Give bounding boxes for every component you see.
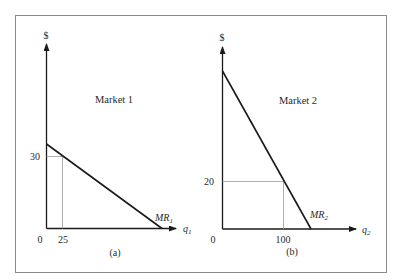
mr1-curve [47,144,163,229]
y-axis-label-a: $ [44,30,49,41]
y-axis-label-b: $ [220,32,225,43]
x-tick-25: 25 [58,234,68,245]
x-tick-100: 100 [276,234,291,245]
y-tick-20: 20 [204,176,214,187]
panel-a: $ Market 1 30 0 25 MR1 q1 (a) [30,30,192,259]
x-axis-label-a: q1 [183,223,192,236]
origin-label-b: 0 [211,234,216,245]
x-axis-label-b: q2 [362,224,371,237]
figure: $ Market 1 30 0 25 MR1 q1 (a) $ Market 2… [0,0,400,280]
y-tick-30: 30 [30,151,40,162]
panel-b: $ Market 2 20 0 100 MR2 q2 (b) [204,32,371,258]
panel-title-b: Market 2 [279,95,317,106]
origin-label-a: 0 [38,234,43,245]
mr2-label: MR2 [309,209,328,222]
panel-label-a: (a) [109,247,120,259]
mr1-label: MR1 [154,212,173,225]
panel-label-b: (b) [286,246,298,258]
panel-title-a: Market 1 [95,94,133,105]
figure-frame [16,16,387,273]
